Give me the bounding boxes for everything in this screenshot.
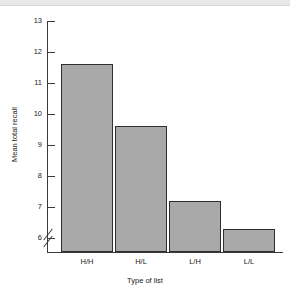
y-tick-label: 13	[20, 17, 42, 25]
bar-l-l	[223, 229, 275, 252]
y-tick-mark	[48, 176, 55, 177]
x-label-l-h: L/H	[169, 257, 221, 266]
y-axis-line	[47, 21, 48, 252]
bar-h-h	[61, 64, 113, 252]
y-tick-11: 11	[0, 83, 290, 84]
x-label-h-l: H/L	[115, 257, 167, 266]
y-tick-label: 8	[20, 172, 42, 180]
x-axis-title: Type of list	[0, 276, 290, 285]
x-axis-line	[47, 252, 283, 253]
axis-break-icon	[41, 229, 55, 247]
x-label-l-l: L/L	[223, 257, 275, 266]
y-tick-label: 10	[20, 110, 42, 118]
y-tick-label: 11	[20, 79, 42, 87]
y-tick-mark	[48, 114, 55, 115]
y-tick-label: 9	[20, 141, 42, 149]
y-tick-mark	[48, 21, 55, 22]
bar-h-l	[115, 126, 167, 252]
y-tick-label: 6	[20, 234, 42, 242]
y-tick-label: 7	[20, 203, 42, 211]
y-tick-mark	[48, 52, 55, 53]
y-axis-title: Mean total recall	[10, 75, 19, 195]
x-label-h-h: H/H	[61, 257, 113, 266]
y-tick-mark	[48, 83, 55, 84]
y-tick-mark	[48, 207, 55, 208]
y-tick-label: 12	[20, 48, 42, 56]
y-tick-10: 10	[0, 114, 290, 115]
y-tick-13: 13	[0, 21, 290, 22]
bar-chart-figure: 13 12 11 10 9 8 7 6 H/H H/L L/H L/L Type	[0, 0, 290, 297]
bar-l-h	[169, 201, 221, 252]
y-tick-12: 12	[0, 52, 290, 53]
y-tick-mark	[48, 145, 55, 146]
